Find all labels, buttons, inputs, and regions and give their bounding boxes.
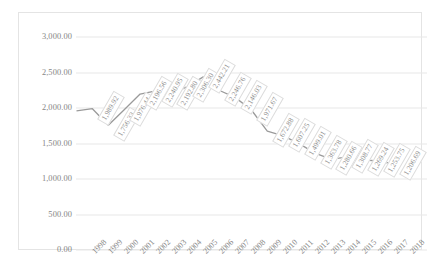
y-tick-label: 3,000.00 [10, 33, 72, 41]
y-tick-label: 1,000.00 [10, 175, 72, 183]
y-tick-label: 2,500.00 [10, 68, 72, 76]
y-tick-label: 2,000.00 [10, 104, 72, 112]
y-tick-label: 500.00 [10, 210, 72, 218]
plot-area [76, 0, 427, 274]
y-axis: 0.00500.001,000.001,500.002,000.002,500.… [0, 0, 72, 274]
y-tick-label: 1,500.00 [10, 139, 72, 147]
x-axis: 1998199920002001200220032004200520062007… [94, 250, 412, 274]
line-chart: 0.00500.001,000.001,500.002,000.002,500.… [0, 0, 437, 274]
y-tick-label: 0.00 [10, 246, 72, 254]
